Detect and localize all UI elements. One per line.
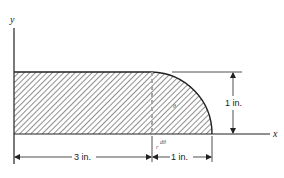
quarter-radius-dimension: 1 in. <box>153 152 211 162</box>
theta-annotation: θ <box>173 103 176 109</box>
diagram-canvas: y x 1 in. 3 in. 1 in. θ dθ r <box>0 0 284 178</box>
radius-annotation: r <box>156 144 159 150</box>
height-dimension: 1 in. <box>225 73 242 133</box>
rect-length-dimension: 3 in. <box>15 152 151 162</box>
x-axis-label: x <box>272 128 278 139</box>
y-axis-label: y <box>9 14 15 25</box>
height-dimension-label: 1 in. <box>225 98 242 108</box>
hatched-plate-region <box>14 72 212 134</box>
dtheta-annotation: dθ <box>160 139 166 145</box>
rect-length-label: 3 in. <box>74 152 91 162</box>
quarter-radius-label: 1 in. <box>171 152 188 162</box>
